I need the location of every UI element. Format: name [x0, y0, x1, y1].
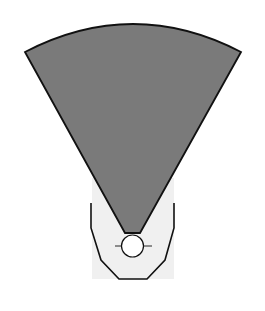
sector-diagram — [0, 0, 265, 311]
beam-sector — [25, 24, 241, 233]
source-circle — [122, 235, 144, 257]
diagram-canvas — [0, 0, 265, 311]
